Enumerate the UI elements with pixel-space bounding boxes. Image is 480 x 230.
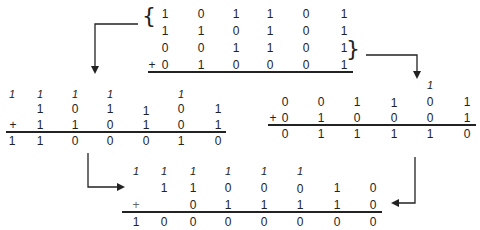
arrowhead-left-icon [391,199,399,207]
flow-arrows [0,0,480,230]
arrow-top-to-right-icon [366,55,417,73]
arrow-right-to-bottom-icon [397,157,415,203]
arrow-left-to-bottom-icon [88,153,119,187]
arrow-top-to-left-icon [95,24,138,68]
arrowhead-down-icon [91,66,99,74]
arrowhead-right-icon [117,183,125,191]
arrowhead-down-icon [413,71,421,79]
